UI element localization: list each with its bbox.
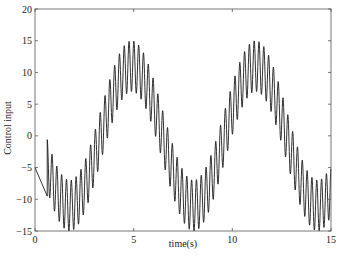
x-tick-label: 5: [131, 234, 136, 245]
chart-background: [0, 0, 339, 258]
y-tick-label: 0: [27, 130, 32, 141]
y-tick-label: 15: [22, 35, 32, 46]
chart: 051015 −15−10−505101520 time(s) Control …: [0, 0, 339, 258]
y-tick-label: 20: [22, 4, 32, 15]
x-tick-label: 0: [33, 234, 38, 245]
y-tick-label: 10: [22, 67, 32, 78]
y-tick-label: −10: [16, 194, 32, 205]
x-axis-label: time(s): [169, 238, 197, 250]
y-axis-label: Control input: [2, 101, 13, 155]
y-tick-label: −15: [16, 226, 32, 237]
x-tick-label: 10: [227, 234, 237, 245]
y-tick-label: 5: [27, 99, 32, 110]
y-tick-label: −5: [21, 162, 32, 173]
x-tick-label: 15: [326, 234, 336, 245]
